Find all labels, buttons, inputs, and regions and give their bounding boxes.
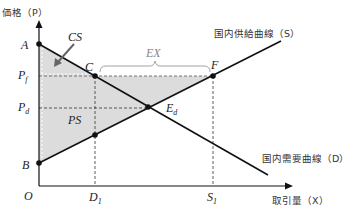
trade-diagram: 価格（P） 取引量（X） O 国内供給曲線（S） 国内需要曲線（D） A B C… <box>0 0 348 214</box>
x-axis-arrow-icon <box>285 183 293 190</box>
label-ps: PS <box>67 113 81 127</box>
point-ed <box>145 104 151 110</box>
x-axis-label: 取引量（X） <box>272 195 329 206</box>
supply-curve-label: 国内供給曲線（S） <box>214 28 300 39</box>
label-d1: D1 <box>88 190 102 206</box>
label-cs: CS <box>68 30 82 44</box>
y-axis-arrow-icon <box>36 20 43 28</box>
y-axis-label: 価格（P） <box>2 7 48 18</box>
point-f <box>210 73 216 79</box>
origin-label: O <box>24 189 33 203</box>
ex-bracket <box>100 61 210 72</box>
label-ex: EX <box>145 46 161 60</box>
label-s1: S1 <box>207 190 217 206</box>
label-a: A <box>20 38 29 52</box>
label-b: B <box>22 158 30 172</box>
label-pf: Pf <box>17 68 29 84</box>
point-c <box>92 73 98 79</box>
point-a <box>36 41 42 47</box>
label-pd: Pd <box>17 100 30 116</box>
label-ed: Ed <box>165 101 178 117</box>
label-c: C <box>85 60 94 74</box>
demand-curve-label: 国内需要曲線（D） <box>262 153 348 164</box>
label-f: F <box>210 58 219 72</box>
point-b <box>36 160 42 166</box>
point-d1-supply <box>92 132 98 138</box>
